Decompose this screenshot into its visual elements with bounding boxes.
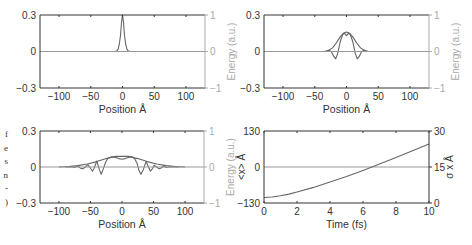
x-tick-label: −50 bbox=[82, 206, 99, 217]
x-tick-label: 0 bbox=[120, 91, 126, 102]
x-tick-label: 100 bbox=[177, 206, 194, 217]
x-axis-label: Time (fs) bbox=[326, 218, 367, 230]
series-sigma-x bbox=[264, 144, 429, 198]
y-right-tick-label: −1 bbox=[209, 198, 221, 209]
y-right-tick-label: −1 bbox=[210, 83, 222, 94]
x-tick-label: −100 bbox=[48, 91, 71, 102]
series-real-part bbox=[326, 33, 367, 59]
y-right-axis-label: Energy (a.u.) bbox=[225, 138, 236, 196]
y-tick-label: −0.3 bbox=[240, 83, 260, 94]
x-tick-label: 100 bbox=[178, 91, 195, 102]
y-right-tick-label: 1 bbox=[210, 10, 216, 21]
y-tick-label: 0.3 bbox=[246, 10, 260, 21]
panel-bottom-left: −100−50050100Position Å−0.300.3−101Energ… bbox=[16, 126, 236, 231]
y-tick-label: −0.3 bbox=[16, 83, 36, 94]
y-tick-label: 0 bbox=[30, 46, 36, 57]
x-tick-label: 2 bbox=[294, 206, 300, 217]
figure: −100−50050100Position Å−0.300.3−101Energ… bbox=[0, 0, 472, 245]
y-right-tick-label: 0 bbox=[434, 46, 440, 57]
series-real-part bbox=[65, 157, 179, 174]
x-tick-label: 50 bbox=[148, 206, 160, 217]
x-axis-label: Position Å bbox=[323, 103, 370, 115]
y-right-axis-label: σ x Å bbox=[443, 155, 455, 179]
y-right-tick-label: 30 bbox=[434, 126, 446, 137]
y-right-axis-label: Energy (a.u.) bbox=[450, 23, 461, 81]
x-tick-label: −100 bbox=[272, 91, 295, 102]
y-right-tick-label: −1 bbox=[434, 83, 446, 94]
y-tick-label: 0 bbox=[30, 162, 36, 173]
y-right-tick-label: 1 bbox=[209, 126, 215, 137]
x-tick-label: 4 bbox=[327, 206, 333, 217]
x-tick-label: 50 bbox=[149, 91, 161, 102]
y-tick-label: 130 bbox=[243, 126, 260, 137]
y-tick-label: 0 bbox=[254, 162, 260, 173]
series-wavepacket bbox=[40, 15, 205, 52]
panel-bottom-right: 0246810Time (fs)−130013001530σ x Å<x> Å bbox=[235, 126, 455, 231]
y-tick-label: 0.3 bbox=[22, 10, 36, 21]
y-tick-label: 0.3 bbox=[22, 126, 36, 137]
panel-top-right: −100−50050100Position Å−0.300.3−101Energ… bbox=[240, 10, 461, 116]
y-tick-label: −0.3 bbox=[16, 198, 36, 209]
y-tick-label: −130 bbox=[237, 198, 260, 209]
y-right-tick-label: 1 bbox=[434, 10, 440, 21]
y-axis-label: <x> Å bbox=[235, 154, 247, 180]
x-tick-label: 0 bbox=[119, 206, 125, 217]
x-axis-label: Position Å bbox=[98, 218, 145, 230]
y-right-tick-label: 0 bbox=[210, 46, 216, 57]
y-right-tick-label: 0 bbox=[434, 198, 440, 209]
x-tick-label: 8 bbox=[393, 206, 399, 217]
x-tick-label: −100 bbox=[48, 206, 71, 217]
x-tick-label: 100 bbox=[402, 91, 419, 102]
x-tick-label: 0 bbox=[344, 91, 350, 102]
x-tick-label: −50 bbox=[306, 91, 323, 102]
x-tick-label: 50 bbox=[373, 91, 385, 102]
series-envelope bbox=[59, 156, 185, 167]
x-axis-label: Position Å bbox=[99, 103, 146, 115]
y-right-axis-label: Energy (a.u.) bbox=[226, 23, 237, 81]
panel-top-left: −100−50050100Position Å−0.300.3−101Energ… bbox=[16, 10, 237, 116]
y-right-tick-label: 0 bbox=[209, 162, 215, 173]
x-tick-label: 6 bbox=[360, 206, 366, 217]
y-tick-label: 0 bbox=[254, 46, 260, 57]
x-tick-label: 0 bbox=[261, 206, 267, 217]
x-tick-label: −50 bbox=[82, 91, 99, 102]
